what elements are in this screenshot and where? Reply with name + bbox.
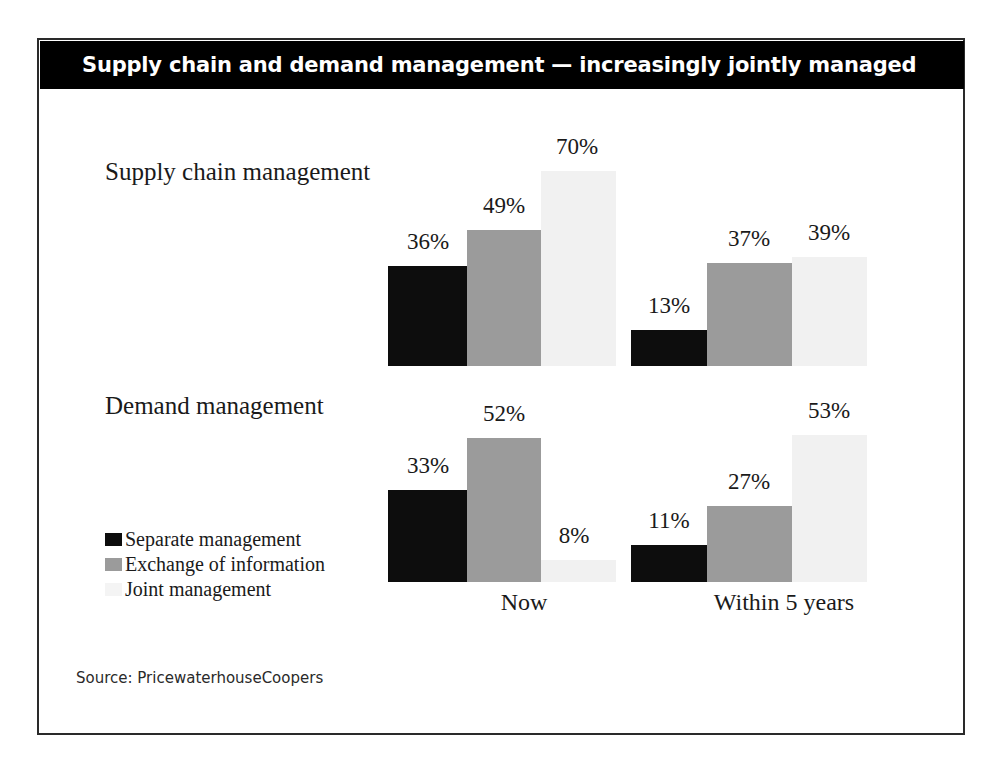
value-label-supply-5y-separate: 13% (619, 293, 719, 319)
legend-swatch-exchange-of-information-icon (105, 558, 122, 571)
figure-frame: Supply chain and demand management — inc… (37, 38, 965, 735)
value-label-demand-now-exchange: 52% (454, 401, 554, 427)
bar-demand-now-joint (541, 560, 616, 582)
value-label-supply-now-separate: 36% (378, 229, 478, 255)
value-label-demand-now-joint: 8% (534, 523, 614, 549)
legend-swatch-joint-management-icon (105, 583, 122, 596)
bar-supply-5y-joint (792, 257, 867, 366)
value-label-demand-now-separate: 33% (378, 453, 478, 479)
axis-label-within-5-years: Within 5 years (684, 589, 884, 616)
value-label-supply-5y-exchange: 37% (699, 226, 799, 252)
chart-legend: Separate management Exchange of informat… (105, 527, 355, 602)
value-label-supply-now-joint: 70% (527, 134, 627, 160)
legend-swatch-separate-management-icon (105, 533, 122, 546)
value-label-demand-5y-joint: 53% (779, 398, 879, 424)
legend-item-joint-management: Joint management (105, 577, 355, 602)
axis-label-now: Now (464, 589, 584, 616)
legend-label-separate-management: Separate management (125, 528, 301, 551)
legend-label-exchange-of-information: Exchange of information (125, 553, 325, 576)
bar-supply-5y-exchange (707, 263, 792, 366)
source-note: Source: PricewaterhouseCoopers (76, 669, 323, 687)
bar-demand-5y-exchange (707, 506, 792, 582)
panel-label-supply-chain: Supply chain management (105, 158, 370, 186)
bar-demand-now-exchange (467, 438, 541, 582)
bar-supply-now-exchange (467, 230, 541, 366)
bar-demand-now-separate (388, 490, 467, 582)
bar-supply-now-separate (388, 266, 467, 366)
panel-label-demand: Demand management (105, 392, 324, 420)
bar-supply-5y-separate (631, 330, 707, 366)
bar-demand-5y-separate (631, 545, 707, 582)
value-label-demand-5y-separate: 11% (619, 508, 719, 534)
legend-item-separate-management: Separate management (105, 527, 355, 552)
chart-plot-area: Supply chain management 70% 49% 36% 39% … (39, 40, 963, 733)
value-label-supply-now-exchange: 49% (454, 193, 554, 219)
value-label-demand-5y-exchange: 27% (699, 469, 799, 495)
legend-item-exchange-of-information: Exchange of information (105, 552, 355, 577)
legend-label-joint-management: Joint management (125, 578, 271, 601)
bar-demand-5y-joint (792, 435, 867, 582)
